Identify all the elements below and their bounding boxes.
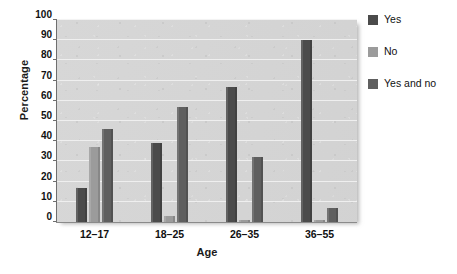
bar-shade [336,208,338,222]
bar-shade [111,129,113,222]
x-axis-line [56,222,357,223]
bar-highlight [102,129,104,222]
legend-label: Yes and no [384,78,436,89]
bar [177,107,188,222]
bar-highlight [252,157,254,222]
gridline [57,80,357,81]
y-tick-label: 80 [20,49,52,60]
gridline [57,120,357,121]
y-tick-label: 0 [20,211,52,222]
y-tick-label: 100 [20,9,52,20]
bar-highlight [314,220,316,222]
bar-highlight [151,143,153,222]
legend-item: Yes [368,14,457,25]
y-tick-label: 60 [20,90,52,101]
bar [89,147,100,222]
x-tick-label: 36–55 [275,228,365,240]
legend-swatch-icon [368,15,378,25]
bar [314,220,325,222]
bar-shade [173,216,175,222]
bar [164,216,175,222]
bar-highlight [164,216,166,222]
y-axis-line [56,20,57,222]
bar-highlight [177,107,179,222]
bar [252,157,263,222]
legend-item: No [368,46,457,57]
bar-shade [85,188,87,222]
y-tick-label: 30 [20,150,52,161]
gridline [57,39,357,40]
y-tick-label: 20 [20,171,52,182]
bar-shade [98,147,100,222]
legend-swatch-icon [368,79,378,89]
legend-item: Yes and no [368,78,457,89]
bar [76,188,87,222]
bar-highlight [89,147,91,222]
gridline [57,100,357,101]
gridline [57,59,357,60]
y-tick-label: 40 [20,130,52,141]
bar [102,129,113,222]
bar-highlight [76,188,78,222]
legend: YesNoYes and no [368,14,457,110]
bar-highlight [239,220,241,222]
y-tick-label: 70 [20,70,52,81]
bar-highlight [301,40,303,222]
bar [151,143,162,222]
bar-highlight [327,208,329,222]
bar-shade [310,40,312,222]
legend-label: No [384,46,397,57]
bar-shade [186,107,188,222]
plot-area [57,20,357,222]
bar-shade [261,157,263,222]
y-tick-label: 10 [20,191,52,202]
bar [327,208,338,222]
bar-chart: Percentage 0102030405060708090100 12–171… [0,0,457,274]
bar-highlight [226,87,228,222]
bar-shade [248,220,250,222]
x-axis-title: Age [0,246,414,258]
bar-shade [235,87,237,222]
legend-swatch-icon [368,47,378,57]
bar [239,220,250,222]
legend-label: Yes [384,14,401,25]
bar-shade [323,220,325,222]
y-tick-label: 90 [20,29,52,40]
bar [226,87,237,222]
gridline [57,19,357,20]
bar-shade [160,143,162,222]
bar [301,40,312,222]
y-tick-label: 50 [20,110,52,121]
